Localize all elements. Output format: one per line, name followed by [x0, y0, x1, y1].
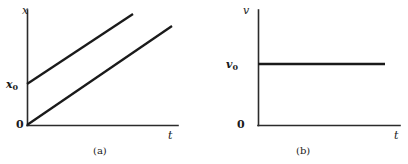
panel-a-y-axis-label: x	[22, 5, 28, 16]
panel-a-line-with-intercept	[27, 14, 133, 84]
panel-a: x x0 0 t (a)	[0, 0, 204, 164]
panel-b-y-axis-label: v	[243, 5, 249, 16]
panel-b-x-axis-label: t	[394, 130, 398, 141]
panel-b-caption: (b)	[296, 145, 310, 156]
panel-a-x0-label: x0	[6, 79, 18, 91]
panel-a-x-axis-label: t	[168, 130, 172, 141]
panel-a-caption: (a)	[93, 145, 107, 156]
panel-a-origin-label: 0	[16, 119, 24, 130]
panel-b-v0-label: v0	[226, 59, 238, 71]
panel-a-plot	[0, 0, 204, 140]
panel-b: v v0 0 t (b)	[204, 0, 408, 164]
panel-a-x0-subscript: 0	[13, 82, 19, 92]
panel-a-line-through-origin	[27, 26, 172, 125]
panel-b-origin-label: 0	[237, 119, 245, 130]
figure-container: x x0 0 t (a) v v0 0 t (b)	[0, 0, 408, 164]
panel-b-v0-subscript: 0	[232, 62, 238, 72]
